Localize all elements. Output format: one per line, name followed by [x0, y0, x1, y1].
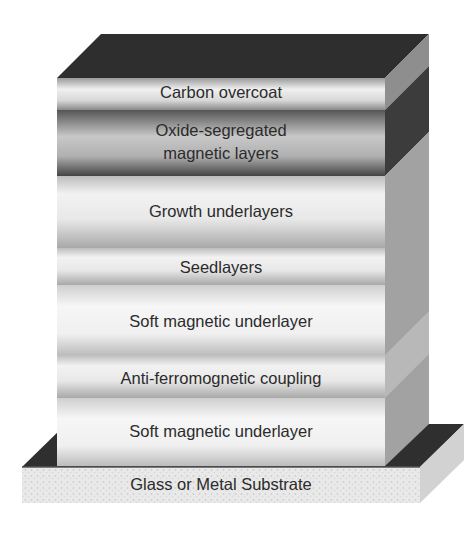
label-substrate: Glass or Metal Substrate [22, 474, 420, 495]
label-oxide-line2: magnetic layers [57, 143, 385, 164]
label-growth-underlayers: Growth underlayers [57, 201, 385, 222]
label-seedlayers: Seedlayers [57, 257, 385, 278]
label-anti-ferromagnetic: Anti-ferromognetic coupling [57, 368, 385, 389]
label-soft-magnetic-1: Soft magnetic underlayer [57, 311, 385, 332]
stack-top-face [57, 34, 429, 78]
label-oxide-line1: Oxide-segregated [57, 120, 385, 141]
stack-side-lower [385, 132, 429, 466]
label-soft-magnetic-2: Soft magnetic underlayer [57, 421, 385, 442]
label-carbon-overcoat: Carbon overcoat [57, 82, 385, 103]
